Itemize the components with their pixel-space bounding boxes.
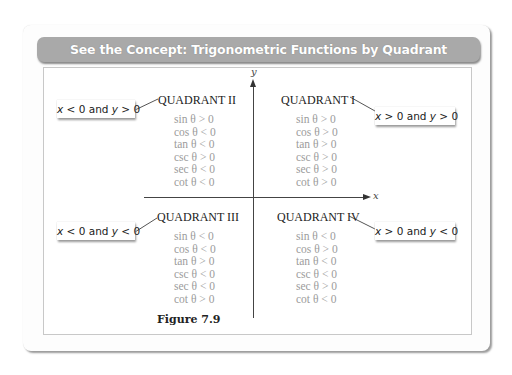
sec-sign: sec θ < 0 <box>174 280 216 293</box>
tan-sign: tan θ > 0 <box>174 255 216 268</box>
quadrant-1-condition: x > 0 and y > 0 <box>375 107 455 125</box>
sin-sign: sin θ > 0 <box>174 113 216 126</box>
cot-sign: cot θ < 0 <box>174 176 216 189</box>
quadrant-1-functions: sin θ > 0 cos θ > 0 tan θ > 0 csc θ > 0 … <box>296 113 338 188</box>
leader-lines <box>0 0 512 375</box>
quadrant-2-condition: x < 0 and y > 0 <box>57 100 135 118</box>
cot-sign: cot θ > 0 <box>296 176 338 189</box>
tan-sign: tan θ < 0 <box>174 138 216 151</box>
quadrant-4-condition: x > 0 and y < 0 <box>375 222 455 240</box>
sec-sign: sec θ > 0 <box>296 163 338 176</box>
tan-sign: tan θ < 0 <box>296 255 338 268</box>
quadrant-3-title: QUADRANT III <box>157 210 239 225</box>
cos-sign: cos θ < 0 <box>174 243 216 256</box>
quadrant-2-title: QUADRANT II <box>158 93 236 108</box>
quadrant-3-condition: x < 0 and y < 0 <box>57 222 135 240</box>
csc-sign: csc θ < 0 <box>174 268 216 281</box>
sec-sign: sec θ > 0 <box>296 280 338 293</box>
quadrant-4-title: QUADRANT IV <box>277 210 360 225</box>
sin-sign: sin θ < 0 <box>174 230 216 243</box>
quadrant-1-title: QUADRANT I <box>281 93 355 108</box>
cos-sign: cos θ > 0 <box>296 243 338 256</box>
tan-sign: tan θ > 0 <box>296 138 338 151</box>
cos-sign: cos θ < 0 <box>174 126 216 139</box>
figure-caption: Figure 7.9 <box>157 313 220 326</box>
cos-sign: cos θ > 0 <box>296 126 338 139</box>
sin-sign: sin θ > 0 <box>296 113 338 126</box>
sec-sign: sec θ < 0 <box>174 163 216 176</box>
quadrant-3-functions: sin θ < 0 cos θ < 0 tan θ > 0 csc θ < 0 … <box>174 230 216 305</box>
quadrant-2-functions: sin θ > 0 cos θ < 0 tan θ < 0 csc θ > 0 … <box>174 113 216 188</box>
csc-sign: csc θ > 0 <box>296 151 338 164</box>
csc-sign: csc θ < 0 <box>296 268 338 281</box>
csc-sign: csc θ > 0 <box>174 151 216 164</box>
quadrant-4-functions: sin θ < 0 cos θ > 0 tan θ < 0 csc θ < 0 … <box>296 230 338 305</box>
sin-sign: sin θ < 0 <box>296 230 338 243</box>
cot-sign: cot θ < 0 <box>296 293 338 306</box>
cot-sign: cot θ > 0 <box>174 293 216 306</box>
